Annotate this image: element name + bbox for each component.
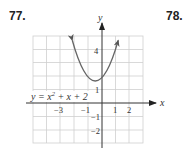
y-axis-label: y	[97, 12, 103, 23]
y-tick-4: 4	[94, 46, 99, 56]
y-tick-1: 1	[95, 85, 99, 95]
x-axis-label: x	[159, 97, 165, 108]
x-tick-1: 1	[113, 105, 117, 115]
x-tick-neg1: −1	[81, 105, 90, 115]
parabola-graph: y x −3 −1 1 2 4 1 −1 −2 y = x2 + x + 2	[0, 0, 183, 154]
y-tick-neg2: −2	[91, 126, 100, 136]
x-tick-neg3: −3	[54, 105, 63, 115]
y-tick-neg1: −1	[91, 112, 100, 122]
grid	[33, 36, 143, 143]
equation-label: y = x2 + x + 2	[30, 90, 88, 102]
x-tick-2: 2	[127, 105, 131, 115]
